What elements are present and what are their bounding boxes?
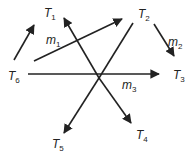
node-label-t2: T2 xyxy=(138,7,150,23)
node-label-t4: T4 xyxy=(136,128,148,144)
arrows-group xyxy=(14,18,174,133)
arrow-to-t1-right xyxy=(64,18,99,78)
line-t2-to-center xyxy=(99,23,133,78)
edge-label-m3: m3 xyxy=(122,78,137,94)
node-label-t5: T5 xyxy=(52,137,64,153)
node-label-t3: T3 xyxy=(173,68,185,84)
edge-label-m2: m2 xyxy=(168,35,183,51)
node-label-t1: T1 xyxy=(44,6,56,22)
labels-group: T1T2T3T4T5T6m1m2m3 xyxy=(8,6,185,153)
edge-label-m1: m1 xyxy=(46,33,61,49)
arrow-to-t1-left xyxy=(14,25,34,60)
node-label-t6: T6 xyxy=(8,69,20,85)
arrow-to-t5 xyxy=(64,78,99,133)
diagram-canvas: T1T2T3T4T5T6m1m2m3 xyxy=(0,0,190,159)
